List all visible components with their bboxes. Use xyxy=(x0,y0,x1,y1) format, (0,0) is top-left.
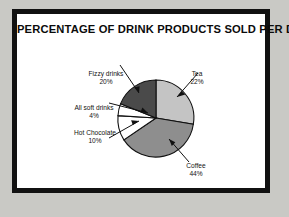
pie-label-fizzy-drinks: Fizzy drinks 20% xyxy=(75,70,137,86)
pie-label-tea-value: 22% xyxy=(177,78,217,86)
pie-label-hot-chocolate: Hot Chocolate 10% xyxy=(61,129,129,145)
pie-label-fizzy-drinks-value: 20% xyxy=(75,78,137,86)
pie-label-hot-chocolate-value: 10% xyxy=(61,137,129,145)
pie-label-all-soft-drinks: All soft drinks 4% xyxy=(61,104,127,120)
pie-label-coffee-name: Coffee xyxy=(186,162,205,169)
pie-label-tea: Tea 22% xyxy=(177,70,217,86)
screenshot-page: PERCENTAGE OF DRINK PRODUCTS SOLD PER DA… xyxy=(0,0,289,217)
pie-label-coffee: Coffee 44% xyxy=(174,162,218,178)
pie-label-fizzy-drinks-name: Fizzy drinks xyxy=(89,70,124,77)
pie-label-hot-chocolate-name: Hot Chocolate xyxy=(74,129,116,136)
pie-label-all-soft-drinks-name: All soft drinks xyxy=(74,104,113,111)
pie-label-all-soft-drinks-value: 4% xyxy=(61,112,127,120)
pie-slice-tea[interactable] xyxy=(156,80,194,124)
chart-frame: PERCENTAGE OF DRINK PRODUCTS SOLD PER DA… xyxy=(12,9,270,193)
pie-label-coffee-value: 44% xyxy=(174,170,218,178)
pie-label-tea-name: Tea xyxy=(192,70,203,77)
pie-chart-plot xyxy=(17,14,265,188)
